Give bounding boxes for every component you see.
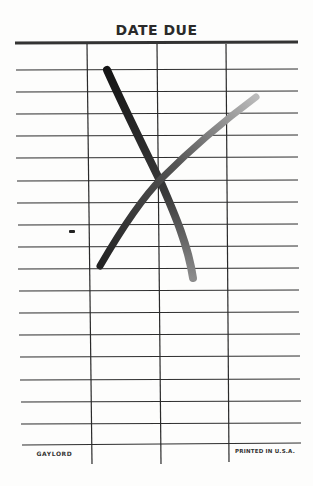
printed-label: PRINTED IN U.S.A.: [230, 448, 300, 454]
ink-speck: [69, 230, 75, 233]
date-due-card: DATE DUE: [0, 0, 313, 486]
date-grid: [0, 0, 313, 486]
header-rule: [15, 42, 298, 43]
publisher-label: GAYLORD: [22, 450, 87, 457]
